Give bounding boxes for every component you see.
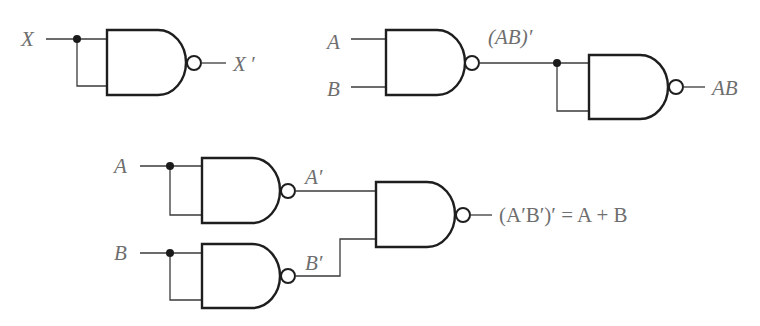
junction-dot (553, 59, 561, 67)
or-circuit: A A′ B B′ (A′B′)′ = A + B (112, 154, 627, 308)
not-circuit: X X ′ (20, 27, 255, 95)
or-b-feedback-wire (170, 253, 202, 300)
inversion-bubble-icon (465, 56, 479, 70)
nand-gate-icon (107, 30, 186, 95)
nand-gate-icon (376, 182, 455, 247)
and-input-b-label: B (327, 77, 340, 101)
junction-dot (166, 162, 174, 170)
inversion-bubble-icon (456, 208, 470, 222)
and-input-a-label: A (325, 30, 340, 54)
inversion-bubble-icon (281, 269, 295, 283)
or-a-feedback-wire (170, 166, 202, 215)
inversion-bubble-icon (281, 184, 295, 198)
nand-gate-icon (202, 244, 280, 308)
or-b-not-label: B′ (305, 251, 323, 275)
not-input-label: X (20, 27, 35, 51)
and-circuit: A B (AB)′ AB (325, 25, 738, 119)
inversion-bubble-icon (669, 80, 683, 94)
not-output-label: X ′ (232, 52, 255, 76)
nand-gate-icon (202, 158, 280, 223)
not-feedback-wire (77, 39, 107, 86)
and-feedback-wire (557, 63, 590, 111)
and-output-label: AB (710, 76, 738, 100)
and-intermediate-label: (AB)′ (488, 25, 533, 49)
or-input-a-label: A (112, 154, 127, 178)
junction-dot (166, 249, 174, 257)
nand-logic-diagram: X X ′ A B (AB)′ AB A A′ B (0, 0, 760, 326)
or-output-label: (A′B′)′ = A + B (499, 203, 627, 227)
junction-dot (73, 35, 81, 43)
or-a-not-label: A′ (303, 165, 323, 189)
nand-gate-icon (386, 30, 465, 95)
inversion-bubble-icon (187, 56, 201, 70)
nand-gate-icon (589, 55, 668, 119)
or-input-b-label: B (114, 241, 127, 265)
